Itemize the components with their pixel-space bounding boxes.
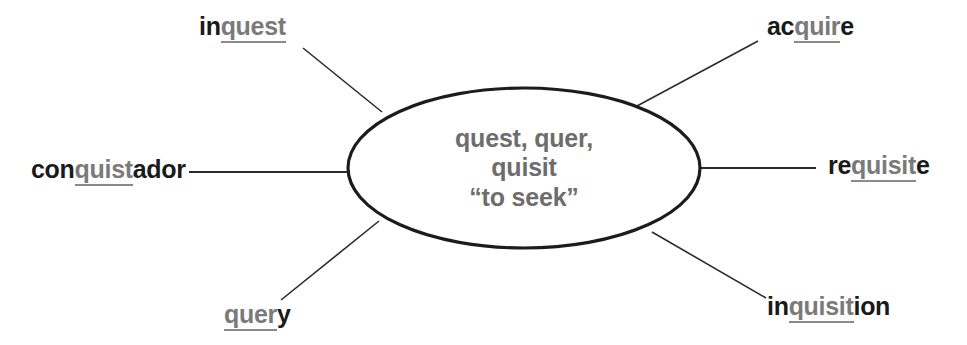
node-conquistador-suffix: ador: [133, 155, 186, 183]
connector-acquire: [637, 41, 758, 106]
node-inquisition-root: quisit: [789, 292, 854, 323]
word-root-diagram: quest, quer, quisit “to seek” inquest ac…: [0, 0, 967, 345]
node-requisite-root: quisit: [851, 151, 916, 182]
node-conquistador: conquistador: [31, 157, 186, 182]
node-acquire-root: quir: [794, 12, 840, 43]
node-requisite-prefix: re: [828, 151, 851, 179]
node-conquistador-root: quist: [75, 155, 133, 186]
node-query-suffix: y: [277, 300, 291, 328]
node-requisite: requisite: [828, 153, 930, 178]
node-query-root: quer: [224, 300, 277, 331]
node-acquire-suffix: e: [840, 12, 854, 40]
node-query: query: [224, 302, 291, 327]
node-conquistador-prefix: con: [31, 155, 75, 183]
connector-inquisition: [652, 232, 766, 298]
node-acquire: acquire: [767, 14, 854, 39]
node-inquest: inquest: [199, 14, 286, 39]
node-inquest-root: quest: [221, 12, 286, 43]
node-inquisition-suffix: ion: [854, 292, 891, 320]
center-ellipse: [348, 88, 700, 248]
node-inquisition-prefix: in: [767, 292, 789, 320]
connector-inquest: [303, 48, 382, 112]
node-inquisition: inquisition: [767, 294, 890, 319]
connector-query: [281, 221, 379, 300]
node-requisite-suffix: e: [916, 151, 930, 179]
node-acquire-prefix: ac: [767, 12, 794, 40]
node-inquest-prefix: in: [199, 12, 221, 40]
